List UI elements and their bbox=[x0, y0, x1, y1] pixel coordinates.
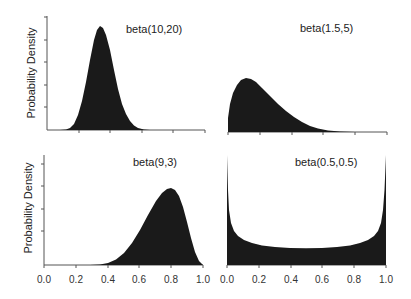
y-axis-label: Probability Density bbox=[22, 162, 34, 254]
svg-text:0.4: 0.4 bbox=[101, 274, 115, 285]
svg-text:0.6: 0.6 bbox=[315, 274, 329, 285]
panel-title: beta(9,3) bbox=[133, 156, 177, 168]
panel-title: beta(1.5,5) bbox=[300, 22, 353, 34]
density-area bbox=[227, 155, 386, 265]
x-tick-labels: 0.0 0.2 0.4 0.6 0.8 1.0 bbox=[37, 274, 210, 285]
panel-beta-0-5-0-5: beta(0.5,0.5) 0.0 0.2 0.4 0.6 0.8 1.0 bbox=[220, 155, 393, 285]
svg-text:0.0: 0.0 bbox=[220, 274, 234, 285]
density-area bbox=[228, 78, 355, 132]
svg-text:0.8: 0.8 bbox=[164, 274, 178, 285]
svg-text:1.0: 1.0 bbox=[196, 274, 210, 285]
y-axis-label: Probability Density bbox=[25, 27, 37, 119]
svg-text:0.0: 0.0 bbox=[37, 274, 51, 285]
density-area bbox=[47, 26, 150, 130]
density-area bbox=[44, 188, 203, 265]
beta-distributions-figure: beta(10,20) Probability Density beta(1.5… bbox=[0, 0, 411, 299]
panel-title: beta(10,20) bbox=[126, 23, 182, 35]
panel-beta-10-20: beta(10,20) Probability Density bbox=[25, 16, 205, 133]
x-tick-labels: 0.0 0.2 0.4 0.6 0.8 1.0 bbox=[220, 274, 393, 285]
panel-beta-9-3: beta(9,3) Probability Density 0.0 0.2 0.… bbox=[22, 155, 210, 285]
svg-text:1.0: 1.0 bbox=[379, 274, 393, 285]
panel-title: beta(0.5,0.5) bbox=[295, 156, 357, 168]
svg-text:0.2: 0.2 bbox=[69, 274, 83, 285]
svg-text:0.8: 0.8 bbox=[347, 274, 361, 285]
panel-beta-1-5-5: beta(1.5,5) bbox=[228, 22, 387, 135]
svg-text:0.6: 0.6 bbox=[132, 274, 146, 285]
svg-text:0.4: 0.4 bbox=[284, 274, 298, 285]
svg-text:0.2: 0.2 bbox=[252, 274, 266, 285]
